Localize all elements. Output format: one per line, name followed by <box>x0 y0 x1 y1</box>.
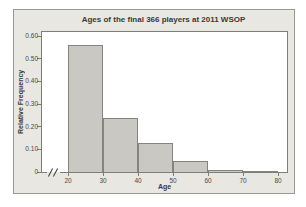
x-axis-tick <box>68 173 69 176</box>
chart-figure: Ages of the final 366 players at 2011 WS… <box>13 9 295 194</box>
x-axis-tick-label: 70 <box>233 177 253 184</box>
x-axis-tick-label: 20 <box>58 177 78 184</box>
screenshot-canvas: Ages of the final 366 players at 2011 WS… <box>0 0 306 207</box>
x-axis-tick-label: 30 <box>93 177 113 184</box>
plot-area: Relative Frequency Age 2030405060708000.… <box>41 31 288 173</box>
x-axis-tick <box>103 173 104 176</box>
y-axis-tick-label: 0.50 <box>21 55 38 62</box>
histogram-bar <box>208 170 243 172</box>
histogram-bar <box>68 45 103 172</box>
x-axis-tick-label: 40 <box>128 177 148 184</box>
x-axis-tick <box>138 173 139 176</box>
x-axis-tick-label: 80 <box>268 177 288 184</box>
x-axis-tick <box>208 173 209 176</box>
y-axis-tick-label: 0.20 <box>21 123 38 130</box>
x-axis-tick-label: 60 <box>198 177 218 184</box>
x-axis-tick <box>243 173 244 176</box>
y-axis-tick-label: 0.10 <box>21 145 38 152</box>
y-axis-tick-label: 0.40 <box>21 77 38 84</box>
x-axis-tick <box>278 173 279 176</box>
y-axis-tick-label: 0.30 <box>21 100 38 107</box>
histogram-bar <box>103 118 138 172</box>
x-axis-tick <box>173 173 174 176</box>
histogram-bar <box>173 161 208 172</box>
x-axis-tick-label: 50 <box>163 177 183 184</box>
histogram-bar <box>243 171 278 172</box>
y-axis-tick-label: 0.60 <box>21 32 38 39</box>
y-axis-tick-label: 0 <box>21 168 38 175</box>
histogram-bar <box>138 143 173 172</box>
chart-title: Ages of the final 366 players at 2011 WS… <box>41 15 286 24</box>
x-axis-label: Age <box>42 183 287 190</box>
